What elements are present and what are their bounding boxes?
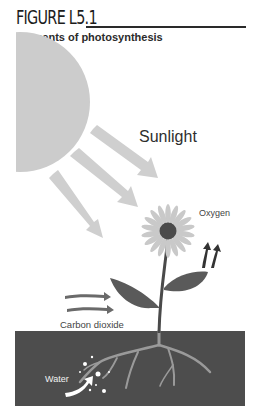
leaf-right bbox=[164, 272, 208, 292]
sunlight-label: Sunlight bbox=[139, 128, 197, 146]
co2-arrow-icon bbox=[67, 305, 114, 314]
water-label: Water bbox=[45, 374, 69, 384]
co2-arrow-icon bbox=[65, 292, 111, 301]
oxygen-arrows bbox=[202, 242, 221, 268]
flower-center bbox=[160, 223, 177, 240]
oxygen-arrow-icon bbox=[211, 244, 221, 268]
carbon-dioxide-label: Carbon dioxide bbox=[60, 319, 124, 330]
carbon-dioxide-arrows bbox=[65, 292, 114, 314]
sunlight-arrow-icon bbox=[49, 170, 103, 238]
photosynthesis-diagram bbox=[0, 0, 260, 413]
leaf-left bbox=[110, 278, 160, 308]
soil bbox=[15, 331, 245, 406]
oxygen-arrow-icon bbox=[202, 242, 211, 268]
oxygen-label: Oxygen bbox=[199, 208, 230, 218]
